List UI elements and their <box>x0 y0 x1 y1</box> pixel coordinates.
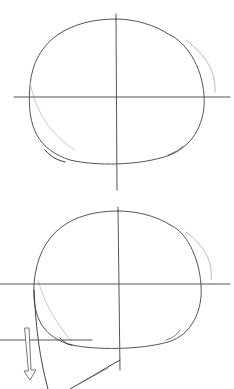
bottom-head-sketch <box>0 207 230 389</box>
sketch-canvas <box>0 0 234 389</box>
top-head-sketch <box>14 14 230 190</box>
down-arrow-icon <box>24 328 36 380</box>
